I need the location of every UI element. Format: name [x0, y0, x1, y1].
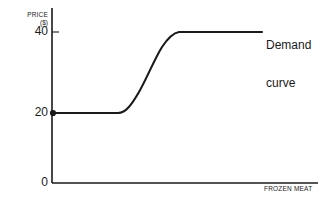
demand-curve-annotation: Demand curve: [266, 14, 311, 115]
demand-curve-annotation-line-2: curve: [266, 77, 311, 90]
demand-curve-annotation-line-1: Demand: [266, 39, 311, 52]
demand-curve-line: [52, 32, 262, 113]
y-tick-label-0: 0: [28, 176, 48, 189]
y-axis-label: PRICE: [12, 12, 48, 19]
y-tick-label-40: 40: [20, 25, 48, 38]
curve-start-marker: [50, 110, 56, 116]
x-axis-label: FROZEN MEAT: [264, 186, 312, 193]
y-tick-label-20: 20: [20, 106, 48, 119]
demand-curve-chart: PRICE ($) 40 20 0 FROZEN MEAT Demand cur…: [0, 0, 330, 208]
